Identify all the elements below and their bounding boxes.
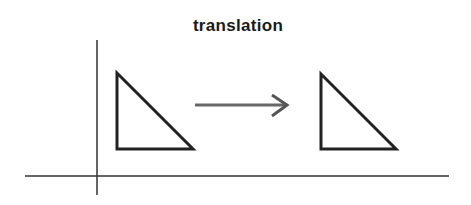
translation-arrow-icon (195, 95, 287, 116)
original-triangle (117, 73, 193, 149)
diagram-canvas (0, 0, 471, 205)
translation-diagram: translation (0, 0, 471, 205)
translated-triangle (321, 74, 396, 149)
